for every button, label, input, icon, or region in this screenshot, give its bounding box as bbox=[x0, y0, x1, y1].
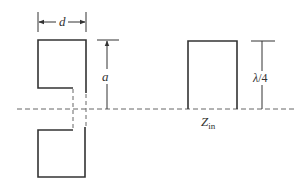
left-conductor-upper bbox=[38, 40, 86, 93]
left-conductor-lower bbox=[38, 127, 85, 177]
quarter-wave-stub bbox=[188, 41, 237, 109]
zin-subscript: in bbox=[208, 121, 215, 131]
a-label: a bbox=[102, 69, 109, 84]
antenna-diagram bbox=[0, 0, 308, 188]
d-label: d bbox=[58, 15, 67, 28]
lambda-divisor: /4 bbox=[258, 71, 267, 85]
lambda-quarter-label: λ/4 bbox=[253, 71, 268, 85]
zin-label: Zin bbox=[201, 115, 215, 131]
